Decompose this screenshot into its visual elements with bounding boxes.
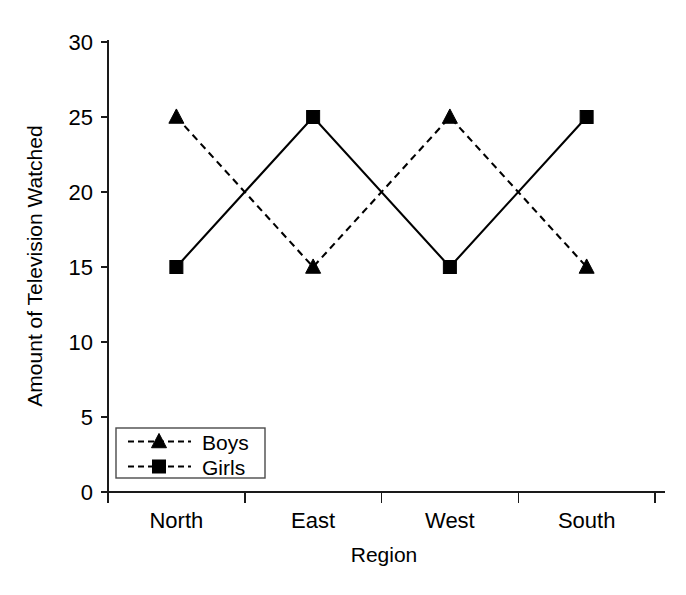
y-tick-label: 10 [69, 330, 93, 355]
legend: BoysGirls [116, 428, 265, 479]
x-tick-label-east: East [291, 508, 335, 533]
y-tick-label: 5 [81, 405, 93, 430]
y-tick-label: 15 [69, 255, 93, 280]
axis-group [108, 40, 665, 492]
legend-label-girls: Girls [202, 456, 245, 479]
y-tick-label: 25 [69, 105, 93, 130]
series-layer [169, 109, 594, 274]
data-point-girls-south [580, 111, 593, 124]
chart-canvas: 051015202530 NorthEastWestSouth Amount o… [0, 0, 686, 595]
y-axis-title: Amount of Television Watched [23, 125, 46, 406]
y-tick-label: 20 [69, 180, 93, 205]
data-point-boys-west [442, 109, 457, 123]
data-point-girls-north [170, 261, 183, 274]
data-point-girls-west [443, 261, 456, 274]
x-tick-label-west: West [425, 508, 475, 533]
data-point-girls-east [307, 111, 320, 124]
y-tick-label: 30 [69, 30, 93, 55]
x-tick-label-north: North [149, 508, 203, 533]
data-point-boys-north [169, 109, 184, 123]
x-axis-ticks [108, 492, 655, 503]
legend-marker-girls [153, 460, 166, 473]
line-chart-figure: 051015202530 NorthEastWestSouth Amount o… [0, 0, 686, 595]
series-girls [170, 111, 593, 274]
y-axis-ticks: 051015202530 [69, 30, 108, 505]
series-line-girls [176, 117, 586, 267]
x-tick-label-south: South [558, 508, 616, 533]
x-axis-title: Region [351, 543, 418, 566]
x-axis-tick-labels: NorthEastWestSouth [149, 508, 615, 533]
legend-label-boys: Boys [202, 431, 249, 454]
y-tick-label: 0 [81, 480, 93, 505]
